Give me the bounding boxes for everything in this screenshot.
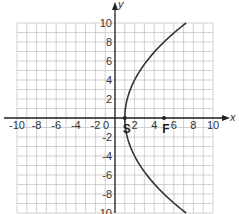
y-tick-label: 10	[100, 17, 112, 29]
x-tick-label: 10	[207, 119, 219, 131]
axes	[4, 2, 230, 213]
y-tick-label: 6	[106, 55, 112, 67]
y-tick-label: 4	[106, 74, 112, 86]
x-tick-label: 2	[132, 119, 138, 131]
x-tick-label: 0	[103, 119, 109, 131]
labeled-points: SF	[123, 116, 170, 136]
x-tick-label: 8	[190, 119, 196, 131]
y-tick-label: 8	[106, 36, 112, 48]
x-axis-arrow-icon	[222, 115, 230, 121]
y-tick-label: -2	[102, 131, 112, 143]
parabola-chart: -10-8-6-4-20246810108642-2-4-6-8-10 SF x…	[0, 0, 239, 214]
x-tick-label: -6	[51, 119, 61, 131]
point-f-marker	[162, 116, 166, 120]
y-tick-label: -10	[96, 207, 112, 214]
y-tick-label: -4	[102, 150, 112, 162]
x-tick-label: -10	[9, 119, 25, 131]
y-axis-label: y	[117, 0, 125, 10]
x-tick-label: 6	[171, 119, 177, 131]
y-tick-label: 2	[106, 93, 112, 105]
point-s-marker	[123, 116, 127, 120]
x-tick-label: -4	[71, 119, 81, 131]
x-tick-label: -8	[32, 119, 42, 131]
x-tick-label: -2	[91, 119, 101, 131]
x-tick-label: 4	[151, 119, 157, 131]
x-axis-label: x	[229, 111, 236, 123]
point-f-label: F	[162, 122, 169, 136]
y-tick-label: -6	[102, 169, 112, 181]
point-s-label: S	[123, 122, 131, 136]
y-tick-label: -8	[102, 188, 112, 200]
